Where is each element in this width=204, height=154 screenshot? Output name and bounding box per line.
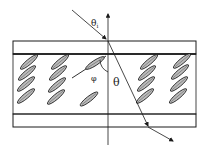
molecule-column-2 — [46, 53, 70, 106]
incident-angle-label: θi — [91, 18, 98, 29]
molecule-column-4 — [168, 52, 192, 105]
lc-cell-diagram: θi φ θ — [0, 0, 204, 154]
lc-layer — [13, 54, 196, 114]
refraction-angle-label: θ — [113, 76, 120, 89]
top-substrate — [13, 41, 196, 54]
molecule-column-3 — [135, 53, 159, 105]
molecule-column-1 — [16, 53, 39, 105]
exit-ray — [148, 127, 173, 141]
bottom-substrate — [13, 114, 196, 127]
incident-ray — [72, 10, 106, 39]
molecule-center-single — [79, 90, 100, 108]
highlighted-molecule — [72, 55, 106, 78]
tilt-angle-label: φ — [91, 74, 97, 83]
